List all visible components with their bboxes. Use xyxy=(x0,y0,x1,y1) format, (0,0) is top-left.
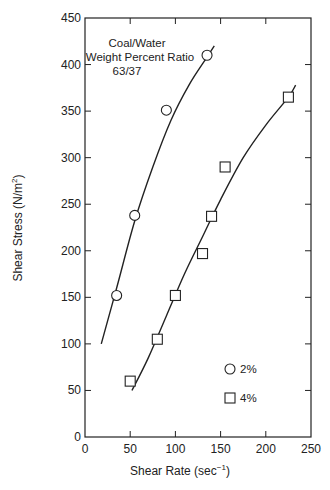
y-tick-label: 300 xyxy=(61,151,81,165)
y-tick-label: 250 xyxy=(61,197,81,211)
y-tick-label: 50 xyxy=(68,383,82,397)
y-tick-label: 100 xyxy=(61,337,81,351)
legend: 2% 4% xyxy=(225,363,257,404)
square-data-point xyxy=(283,92,293,102)
x-tick-label: 50 xyxy=(124,442,138,456)
square-data-point xyxy=(220,162,230,172)
x-tick-label: 0 xyxy=(82,442,89,456)
legend-label-2pct: 2% xyxy=(240,363,257,375)
circle-data-point xyxy=(112,290,122,300)
annotation-line-2: Weight Percent Ratio xyxy=(86,51,194,63)
circle-data-point xyxy=(130,210,140,220)
y-tick-label: 0 xyxy=(74,430,81,444)
x-tick-label: 200 xyxy=(256,442,276,456)
square-data-point xyxy=(170,290,180,300)
plot-frame xyxy=(85,18,311,437)
y-tick-label: 150 xyxy=(61,290,81,304)
shear-stress-chart: 0501001502002500501001502002503003504004… xyxy=(0,0,330,490)
legend-square-marker-icon xyxy=(225,393,235,403)
plot-axes: 0501001502002500501001502002503003504004… xyxy=(61,11,321,456)
legend-label-4pct: 4% xyxy=(240,392,257,404)
square-data-point xyxy=(207,211,217,221)
circle-data-point xyxy=(202,50,212,60)
annotation-line-3: 63/37 xyxy=(113,65,142,77)
square-data-point xyxy=(198,249,208,259)
square-data-point xyxy=(125,376,135,386)
x-axis-label: Shear Rate (sec−1) xyxy=(130,463,230,478)
x-tick-label: 100 xyxy=(165,442,185,456)
y-axis-label: Shear Stress (N/m2) xyxy=(10,174,25,281)
y-tick-label: 400 xyxy=(61,58,81,72)
x-tick-label: 150 xyxy=(211,442,231,456)
data-markers xyxy=(112,50,294,386)
square-data-point xyxy=(152,334,162,344)
circle-data-point xyxy=(161,105,171,115)
legend-circle-marker-icon xyxy=(225,364,235,374)
y-tick-label: 350 xyxy=(61,104,81,118)
y-tick-label: 450 xyxy=(61,11,81,25)
x-tick-label: 250 xyxy=(301,442,321,456)
y-tick-label: 200 xyxy=(61,244,81,258)
annotation-line-1: Coal/Water xyxy=(108,37,165,49)
